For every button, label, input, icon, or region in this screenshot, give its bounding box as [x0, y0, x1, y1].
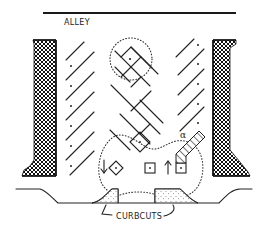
down-arrow-icon — [101, 160, 107, 173]
left-building — [22, 40, 56, 176]
up-arrow-icon — [165, 161, 171, 174]
alley-label: ALLEY — [64, 18, 90, 27]
center-parking-row — [110, 47, 163, 152]
site-plan-diagram: ALLEY — [0, 0, 270, 240]
right-parking-row — [176, 39, 204, 131]
right-building — [213, 40, 250, 176]
curbcut-left — [92, 189, 118, 203]
alley: ALLEY — [43, 13, 236, 27]
curbcuts-callout: CURBCUTS — [102, 205, 174, 221]
lower-stall-markers — [109, 161, 186, 175]
angle-alpha-marker: α — [180, 130, 186, 140]
curbcuts-label: CURBCUTS — [116, 212, 162, 221]
curbcut-right — [155, 189, 198, 203]
street-curb — [16, 189, 252, 203]
left-parking-row — [66, 42, 94, 175]
